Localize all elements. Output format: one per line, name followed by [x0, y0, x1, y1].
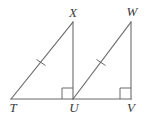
vertex-label-X: X — [63, 6, 83, 19]
right-angle-marker-U — [62, 88, 73, 99]
tick-mark-UW — [97, 60, 106, 66]
vertex-label-W: W — [122, 5, 142, 18]
right-angle-marker-V — [120, 88, 131, 99]
vertex-label-V: V — [121, 101, 141, 114]
segment-TX-hypotenuse — [11, 22, 73, 99]
vertex-label-U: U — [64, 101, 84, 114]
segment-UW-hypotenuse — [73, 22, 131, 99]
vertex-label-T: T — [3, 101, 23, 114]
geometry-figure: X W T U V — [0, 0, 150, 117]
tick-mark-TX — [37, 60, 46, 66]
